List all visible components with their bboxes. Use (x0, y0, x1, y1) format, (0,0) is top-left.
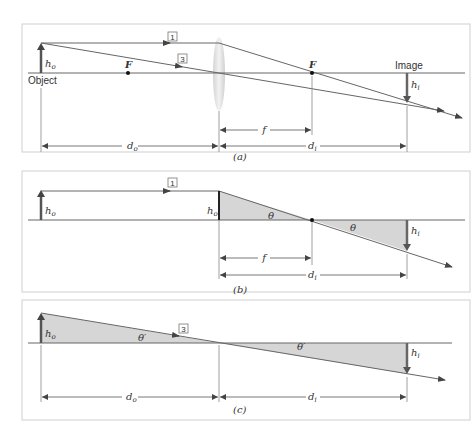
ray-1-label: 1 (170, 179, 175, 188)
panel-a: 1 3 ho Object F F Image hi f do di ( (22, 24, 470, 162)
theta-right-label: θ (350, 222, 356, 233)
ho-label: ho (45, 205, 56, 218)
ray-3-label: 3 (181, 325, 186, 334)
caption-a: (a) (233, 151, 247, 162)
focal-point (310, 218, 314, 222)
panel-b: 1 ho ho θ θ hi f di (b) (22, 171, 470, 295)
image-label: Image (395, 60, 423, 71)
focal-left-label: F (124, 59, 133, 70)
ray-3-label: 3 (180, 55, 185, 64)
focal-point-right (310, 71, 314, 75)
panel-c: 3 ho θ′ θ′ hi do di (c) (22, 300, 470, 420)
ho-label: ho (45, 58, 56, 71)
ray-1-label: 1 (170, 33, 175, 42)
ray-3-arrow-icon (175, 66, 182, 67)
ray-1-refracted (219, 43, 462, 118)
hi-label: hi (411, 225, 420, 238)
theta-left-label: θ′ (138, 332, 147, 343)
hi-label: hi (411, 347, 420, 360)
theta-right-label: θ′ (297, 341, 306, 352)
caption-b: (b) (233, 284, 247, 295)
focal-right-label: F (308, 59, 317, 70)
focal-point-left (126, 71, 130, 75)
object-arrow-head-icon (37, 43, 45, 50)
caption-c: (c) (233, 404, 247, 415)
theta-left-label: θ (268, 210, 274, 221)
ho-lens-label: ho (207, 205, 218, 218)
thin-lens-ray-diagram: 1 3 ho Object F F Image hi f do di ( (0, 0, 472, 439)
ray-3 (41, 43, 444, 111)
object-label: Object (28, 75, 57, 86)
hi-label: hi (411, 79, 420, 92)
triangle-right-shaded (312, 220, 407, 251)
